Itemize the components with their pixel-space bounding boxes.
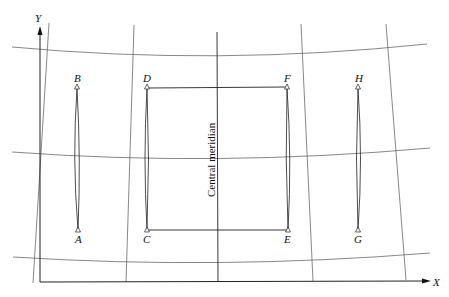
point-label-D: D <box>142 72 151 84</box>
x-axis-label: X <box>432 276 441 288</box>
parallel-top <box>12 44 427 56</box>
diagram-canvas: Y X B D F H A C E G Central meridian <box>0 0 449 297</box>
y-axis-label: Y <box>35 12 43 24</box>
point-E-marker-icon <box>286 227 291 232</box>
curve-H-G-right <box>358 88 361 230</box>
central-meridian-label: Central meridian <box>205 122 217 197</box>
curve-F-E-left <box>286 88 288 230</box>
projection-diagram: Y X B D F H A C E G Central meridian <box>0 0 449 297</box>
curve-B-A-right <box>77 88 79 230</box>
segment-D-F <box>147 87 287 88</box>
central-meridian-line <box>217 32 218 282</box>
x-axis <box>40 281 423 282</box>
meridian-5 <box>386 24 406 280</box>
curve-D-C-right <box>147 88 149 230</box>
x-axis-arrow-icon <box>422 279 431 284</box>
point-H-marker-icon <box>356 84 361 89</box>
point-label-F: F <box>283 72 291 84</box>
point-C-marker-icon <box>145 227 150 232</box>
point-A-marker-icon <box>76 227 81 232</box>
point-G-marker-icon <box>356 227 361 232</box>
curve-B-A-left <box>75 88 78 230</box>
meridian-4 <box>301 24 313 281</box>
point-label-C: C <box>143 233 151 245</box>
point-label-E: E <box>283 233 291 245</box>
meridian-2 <box>126 25 134 282</box>
point-label-A: A <box>74 233 82 245</box>
curve-D-C-left <box>145 88 147 230</box>
curve-H-G-left <box>357 88 359 230</box>
point-label-H: H <box>354 72 364 84</box>
point-label-G: G <box>354 233 362 245</box>
parallel-bottom <box>13 253 430 263</box>
point-D-marker-icon <box>145 84 150 89</box>
point-B-marker-icon <box>75 84 80 89</box>
point-label-B: B <box>74 72 81 84</box>
y-axis-arrow-icon <box>38 26 43 35</box>
meridian-1 <box>33 23 49 283</box>
point-F-marker-icon <box>285 84 290 89</box>
